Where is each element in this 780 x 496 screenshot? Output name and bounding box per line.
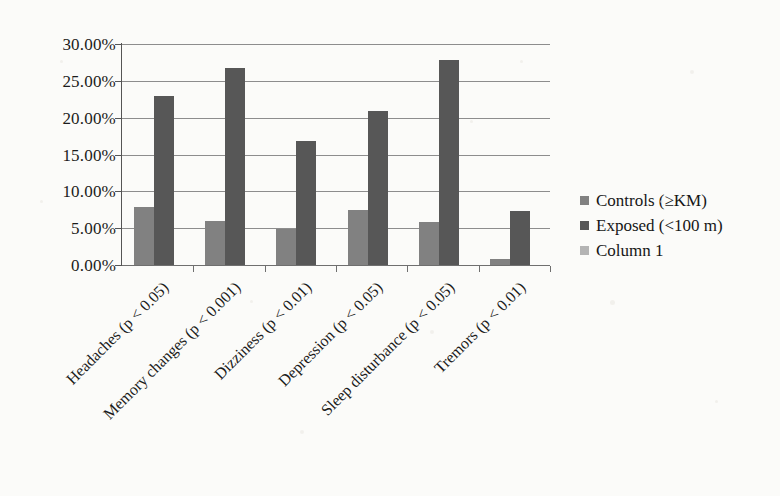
y-axis-tickmark xyxy=(115,155,122,156)
scan-speckle xyxy=(610,300,615,305)
legend-item: Controls (≥KM) xyxy=(580,188,780,213)
legend-label: Column 1 xyxy=(596,241,664,260)
legend-item: Exposed (<100 m) xyxy=(580,213,780,238)
scan-speckle xyxy=(520,60,523,63)
legend-swatch-icon xyxy=(580,221,589,230)
chart-legend: Controls (≥KM)Exposed (<100 m)Column 1 xyxy=(580,188,780,263)
legend-swatch-icon xyxy=(580,196,589,205)
legend-label: Exposed (<100 m) xyxy=(596,216,723,235)
scan-speckle xyxy=(120,330,124,334)
y-axis-tickmark xyxy=(115,191,122,192)
scan-speckle xyxy=(40,200,43,203)
x-axis-tickmark xyxy=(265,266,266,272)
legend-swatch-icon xyxy=(580,246,589,255)
legend-label: Controls (≥KM) xyxy=(596,191,707,210)
y-axis-tickmark xyxy=(115,118,122,119)
y-axis-tickmark xyxy=(115,265,122,266)
scan-speckle xyxy=(690,70,694,74)
y-axis-tickmark xyxy=(115,44,122,45)
y-axis-tickmark xyxy=(115,228,122,229)
scan-speckle xyxy=(300,430,304,434)
scan-speckle xyxy=(470,120,473,123)
scan-speckle xyxy=(430,330,434,334)
x-axis-tickmark xyxy=(193,266,194,272)
x-axis-tickmark xyxy=(336,266,337,272)
bar-chart: 0.00%5.00%10.00%15.00%20.00%25.00%30.00%… xyxy=(0,0,780,496)
scan-speckle xyxy=(715,400,718,403)
x-axis-tickmark xyxy=(550,266,551,272)
scan-speckle xyxy=(250,300,253,303)
x-axis-tickmark xyxy=(479,266,480,272)
legend-item: Column 1 xyxy=(580,238,780,263)
x-axis-tickmark xyxy=(407,266,408,272)
scan-speckle xyxy=(660,200,663,203)
y-axis-tickmark xyxy=(115,81,122,82)
scan-speckle xyxy=(60,60,63,63)
